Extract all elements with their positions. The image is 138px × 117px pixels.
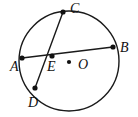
point-label-e: E <box>47 60 56 74</box>
point-label-d: D <box>28 96 38 110</box>
point-dot-a <box>19 55 24 60</box>
chord-ab <box>22 47 113 58</box>
point-label-a: A <box>10 60 19 74</box>
point-label-c: C <box>70 2 79 16</box>
chord-cd <box>35 12 63 88</box>
geometry-canvas <box>0 0 138 117</box>
circle-geometry-figure: A B C D E O <box>0 0 138 117</box>
point-dot-e <box>49 53 54 58</box>
point-label-o: O <box>78 58 88 72</box>
point-dot-c <box>60 9 65 14</box>
point-label-b: B <box>120 41 129 55</box>
point-dot-b <box>110 44 115 49</box>
point-dot-d <box>32 85 37 90</box>
circle-center-dot <box>67 60 71 64</box>
